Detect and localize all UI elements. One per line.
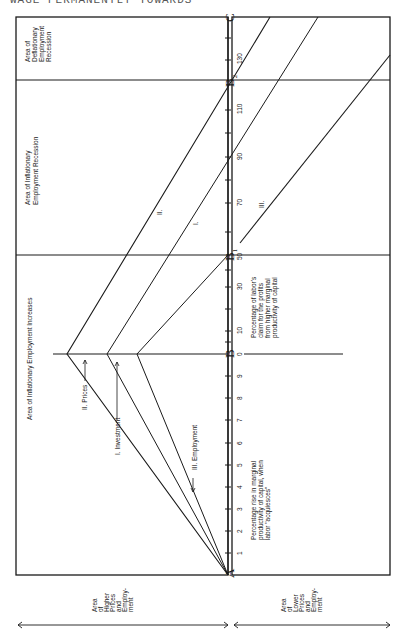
- series-iii-continuation-line: [240, 55, 390, 243]
- tick-3: 3: [236, 507, 243, 511]
- area-deflationary-label-1: Area of: [24, 41, 31, 62]
- point-c-label: C: [222, 13, 237, 22]
- tick-90: 90: [236, 152, 243, 160]
- bottom-left-label-7: ment: [127, 597, 134, 612]
- series-iii-roman-label: III.: [258, 201, 265, 208]
- series-i-roman-label: I.: [192, 221, 199, 225]
- point-b2-label: B2: [222, 74, 239, 87]
- tick-50: 50: [236, 252, 243, 260]
- series-iii-employment-line: [137, 255, 228, 575]
- tick-2: 2: [236, 529, 243, 533]
- lower-scale-note-3: labor "acquiesces": [264, 486, 272, 540]
- tick-70: 70: [236, 198, 243, 206]
- tick-6: 6: [236, 441, 243, 445]
- tick-1: 1: [236, 551, 243, 555]
- left-panel-frame: [16, 17, 228, 575]
- point-a-label: A: [222, 568, 237, 578]
- tick-30: 30: [236, 282, 243, 290]
- tick-9: 9: [236, 374, 243, 378]
- tick-0: 0: [236, 352, 243, 356]
- tick-5: 5: [236, 463, 243, 467]
- bottom-right-label-7: ment: [316, 597, 323, 612]
- chart: A B B1 B2 C 1 2 3 4 5 6 7 8 9 0 10 30 50…: [0, 0, 403, 644]
- area-recession-label-1: Area of Inflationary: [24, 150, 32, 205]
- point-b-label: B: [222, 349, 237, 358]
- upper-scale-note-4: productivity of capital: [271, 277, 279, 338]
- series-investment-label: I. Investment: [114, 418, 121, 455]
- series-i-investment-line: [107, 17, 318, 575]
- series-employment-label: III. Employment: [191, 425, 199, 470]
- tick-4: 4: [236, 485, 243, 489]
- series-prices-label: II. Prices: [81, 384, 88, 410]
- tick-8: 8: [236, 396, 243, 400]
- area-deflationary-label-4: Recession: [45, 31, 52, 62]
- area-increases-label: Area of Inflationary Employment Increase…: [26, 297, 34, 420]
- series-ii-roman-label: II.: [156, 209, 163, 215]
- tick-130: 130: [236, 53, 243, 64]
- area-recession-label-2: Employment Recession: [32, 136, 40, 205]
- tick-110: 110: [236, 103, 243, 114]
- series-ii-prices-line: [67, 17, 270, 575]
- tick-10: 10: [236, 326, 243, 334]
- tick-7: 7: [236, 418, 243, 422]
